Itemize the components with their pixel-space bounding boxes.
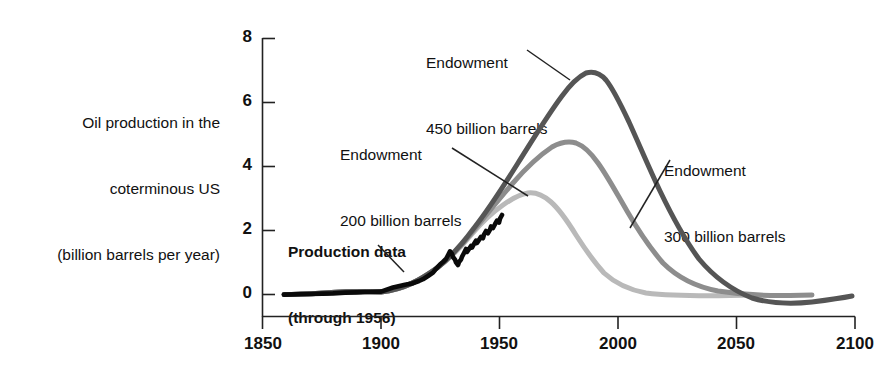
x-tick-marks	[263, 317, 856, 330]
curve-production-data	[284, 215, 502, 295]
y-tick-label-2: 2	[208, 219, 252, 239]
curve-endowment-300	[284, 142, 812, 296]
y-tick-marks	[263, 39, 276, 295]
chart-figure: Oil production in the coterminous US (bi…	[0, 0, 874, 370]
y-tick-label-4: 4	[208, 155, 252, 175]
x-tick-label-1850: 1850	[234, 334, 292, 354]
data-curves-group	[284, 72, 852, 303]
x-tick-label-1950: 1950	[470, 334, 528, 354]
x-tick-label-2100: 2100	[826, 334, 874, 354]
leader-lines-group	[378, 50, 670, 272]
leader-line-production-data	[378, 245, 404, 272]
x-tick-label-2050: 2050	[707, 334, 765, 354]
axes-group	[263, 38, 856, 317]
x-tick-label-1900: 1900	[352, 334, 410, 354]
y-tick-label-0: 0	[208, 283, 252, 303]
y-tick-label-6: 6	[208, 91, 252, 111]
leader-line-endowment-200	[452, 148, 528, 196]
curve-endowment-450	[284, 72, 852, 303]
x-tick-label-2000: 2000	[589, 334, 647, 354]
leader-line-endowment-450	[527, 50, 570, 80]
chart-canvas	[0, 0, 874, 370]
y-tick-label-8: 8	[208, 27, 252, 47]
